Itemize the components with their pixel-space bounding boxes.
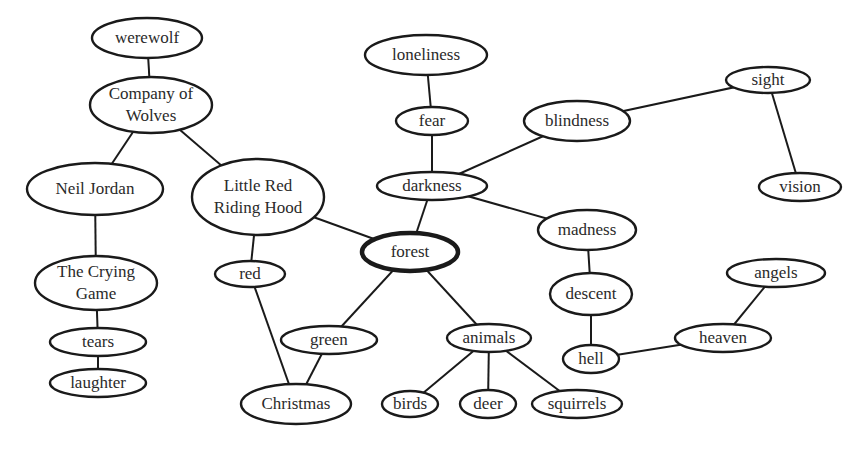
node-label: squirrels xyxy=(548,394,607,413)
node-label: vision xyxy=(779,177,821,196)
node-company: Company ofWolves xyxy=(90,77,212,133)
node-darkness: darkness xyxy=(377,172,487,200)
node-label: green xyxy=(310,330,348,349)
node-green: green xyxy=(281,326,377,354)
concept-map-diagram: werewolfCompany ofWolvesNeil JordanLittl… xyxy=(0,0,867,449)
node-hell: hell xyxy=(563,345,619,373)
node-label: Riding Hood xyxy=(214,198,303,217)
node-forest: forest xyxy=(362,233,458,271)
node-blindness: blindness xyxy=(524,101,630,141)
node-descent: descent xyxy=(550,273,632,315)
node-label: The Crying xyxy=(57,262,135,281)
node-label: Christmas xyxy=(262,394,331,413)
node-squirrels: squirrels xyxy=(532,390,622,418)
node-sight: sight xyxy=(726,67,810,93)
node-label: hell xyxy=(578,349,604,368)
node-tears: tears xyxy=(50,328,146,356)
node-werewolf: werewolf xyxy=(92,18,202,58)
node-madness: madness xyxy=(538,210,636,250)
nodes-layer: werewolfCompany ofWolvesNeil JordanLittl… xyxy=(27,18,841,424)
node-label: descent xyxy=(566,284,617,303)
node-label: Little Red xyxy=(224,176,293,195)
node-laughter: laughter xyxy=(50,369,146,397)
node-label: loneliness xyxy=(392,45,460,64)
node-label: heaven xyxy=(699,328,748,347)
node-label: angels xyxy=(754,263,797,282)
node-label: birds xyxy=(393,394,427,413)
node-loneliness: loneliness xyxy=(365,35,487,75)
node-label: Company of xyxy=(109,84,194,103)
node-deer: deer xyxy=(460,390,516,418)
node-birds: birds xyxy=(382,391,438,417)
node-label: Game xyxy=(76,284,117,303)
node-label: fear xyxy=(419,111,446,130)
edge-sight-vision xyxy=(768,80,800,187)
node-label: sight xyxy=(751,70,784,89)
concept-map-canvas: werewolfCompany ofWolvesNeil JordanLittl… xyxy=(0,0,867,449)
node-fear: fear xyxy=(396,107,468,135)
node-label: tears xyxy=(82,332,114,351)
node-label: madness xyxy=(558,220,617,239)
node-label: deer xyxy=(473,394,503,413)
node-lrrh: Little RedRiding Hood xyxy=(192,159,324,235)
node-label: forest xyxy=(391,242,430,261)
node-vision: vision xyxy=(759,173,841,201)
node-heaven: heaven xyxy=(675,324,771,352)
node-label: werewolf xyxy=(115,28,180,47)
node-crying: The CryingGame xyxy=(35,256,157,310)
node-label: animals xyxy=(463,328,516,347)
node-label: darkness xyxy=(402,176,461,195)
node-label: Wolves xyxy=(126,106,177,125)
node-neil: Neil Jordan xyxy=(27,163,163,215)
node-label: red xyxy=(239,264,261,283)
node-label: Neil Jordan xyxy=(56,179,135,198)
node-christmas: Christmas xyxy=(241,384,351,424)
node-red: red xyxy=(215,261,285,287)
node-label: blindness xyxy=(545,111,609,130)
node-label: laughter xyxy=(70,373,126,392)
node-animals: animals xyxy=(447,324,531,352)
node-angels: angels xyxy=(727,259,825,287)
